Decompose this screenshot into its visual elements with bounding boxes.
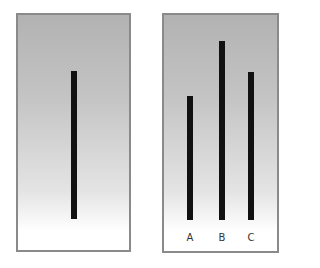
comparison-line-b (219, 41, 225, 220)
label-a: A (180, 232, 200, 243)
label-b: B (212, 232, 232, 243)
comparison-line-c (248, 72, 254, 220)
reference-line (71, 71, 77, 219)
label-c: C (241, 232, 261, 243)
comparison-line-a (187, 96, 193, 220)
